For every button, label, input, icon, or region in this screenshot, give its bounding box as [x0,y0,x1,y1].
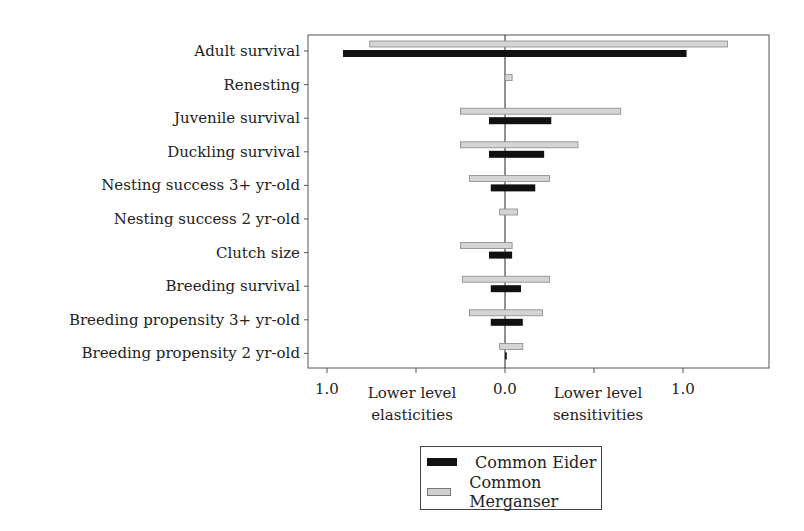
legend-label: Common Eider [475,453,596,472]
svg-text:elasticities: elasticities [371,406,453,424]
bar-eider [489,117,551,124]
category-label: Renesting [224,76,301,94]
bar-merganser [500,209,518,215]
bar-eider [491,184,536,191]
category-label: Duckling survival [167,143,300,161]
svg-text:1.0: 1.0 [671,380,695,398]
category-label: Adult survival [193,42,300,60]
plot-frame [308,35,769,368]
bar-eider [489,252,512,259]
bar-merganser [370,41,728,47]
svg-text:0.0: 0.0 [493,380,517,398]
svg-text:sensitivities: sensitivities [553,406,643,424]
category-label: Breeding propensity 3+ yr-old [69,311,301,329]
bar-merganser [505,75,512,81]
legend-item-merganser: Common Merganser [421,477,601,507]
bar-merganser [469,175,549,181]
bar-eider [491,285,521,292]
category-label: Clutch size [216,244,300,262]
bar-merganser [462,276,549,282]
category-label: Breeding propensity 2 yr-old [81,344,300,362]
bar-merganser [461,108,621,114]
svg-text:Lower level: Lower level [368,384,457,402]
svg-text:Lower level: Lower level [554,384,643,402]
category-label: Nesting success 3+ yr-old [101,176,300,194]
category-label: Juvenile survival [172,109,300,127]
bar-eider [489,151,544,158]
svg-text:1.0: 1.0 [315,380,339,398]
bar-merganser [461,142,578,148]
merganser-swatch [427,488,451,496]
bar-eider [505,352,507,359]
eider-swatch [427,458,457,466]
legend: Common Eider Common Merganser [420,446,602,510]
bar-eider [491,319,523,326]
category-label: Nesting success 2 yr-old [114,210,301,228]
bar-eider [343,50,687,57]
bar-merganser [469,310,542,316]
legend-label: Common Merganser [469,473,601,511]
tornado-chart: Adult survivalRenestingJuvenile survival… [0,0,804,440]
bar-merganser [500,343,523,349]
bar-merganser [461,243,513,249]
category-label: Breeding survival [166,277,301,295]
